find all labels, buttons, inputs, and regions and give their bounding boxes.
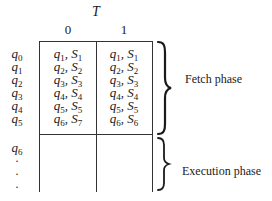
ellipsis-dot: · — [12, 156, 22, 166]
table-right-border — [152, 41, 153, 192]
column-header-1: 1 — [96, 22, 152, 38]
ellipsis-dot: · — [12, 169, 22, 179]
table-cell: q6, S7 — [40, 112, 96, 125]
column-header-0: 0 — [40, 22, 96, 38]
execution-phase-brace-icon — [155, 136, 175, 192]
fetch-phase-brace-icon — [155, 40, 175, 136]
table-cell: q6, S6 — [96, 112, 152, 125]
row-state-label: q5 — [2, 112, 32, 125]
row-state-label: q6 — [2, 141, 32, 154]
ellipsis-dot: · — [12, 182, 22, 192]
table-title: T — [0, 4, 192, 20]
fetch-phase-label: Fetch phase — [185, 72, 242, 87]
execution-phase-label: Execution phase — [182, 164, 261, 179]
